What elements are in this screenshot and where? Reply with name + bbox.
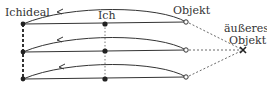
row-3: [21, 51, 241, 82]
freud-group-psychology-diagram: Ichideal Ich Objekt äußeres Objekt: [0, 0, 267, 93]
ego-dot: [102, 48, 107, 53]
ego-dot: [102, 76, 107, 81]
object-circle: [184, 20, 188, 24]
object-circle: [184, 48, 188, 52]
ego-dot: [102, 21, 107, 26]
dashed-to-external: [189, 51, 241, 76]
ego-ideal-dot: [21, 50, 26, 55]
ego-ideal-dot: [21, 22, 26, 27]
row-2: [21, 37, 240, 54]
object-circle: [184, 75, 188, 79]
ego-ideal-label: Ichideal: [5, 7, 50, 19]
ego-ideal-dot: [21, 77, 26, 82]
ego-label: Ich: [98, 10, 116, 22]
external-object-cross-icon: [240, 47, 246, 53]
object-label: Objekt: [173, 5, 210, 17]
external-object-label-line2: Objekt: [229, 35, 266, 47]
